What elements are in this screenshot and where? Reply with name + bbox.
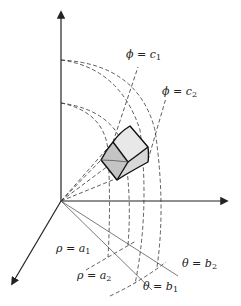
ray-2 [61,142,113,201]
rho-a1-floor-arc [86,241,136,270]
rho-a1-meridian-theta-b1 [61,103,110,257]
ray-1 [61,160,101,201]
label-phi-c1: ϕ = c1 [126,48,161,62]
phi-c2-line [148,98,166,160]
label-rho-a2: ρ = a2 [76,269,111,283]
ray-4 [61,166,108,201]
label-phi-c2: ϕ = c2 [162,85,197,99]
theta-b2-ray [61,201,178,276]
label-theta-b1: θ = b1 [143,280,178,294]
x-axis [12,201,61,284]
volume-element [101,126,149,180]
spherical-volume-element-diagram: ϕ = c1 ϕ = c2 ρ = a1 ρ = a2 θ = b1 θ = b… [0,0,241,306]
label-rho-a1: ρ = a1 [55,242,90,256]
label-theta-b2: θ = b2 [182,257,217,271]
